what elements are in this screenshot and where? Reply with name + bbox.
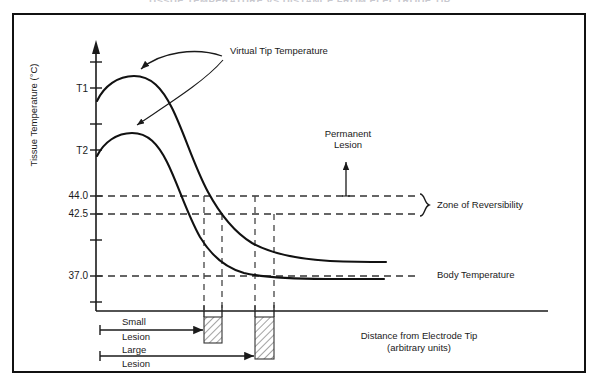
annotation-small-lesion-line2: Lesion <box>122 331 150 342</box>
figure-root: TISSUE TEMPERATURE VS DISTANCE FROM ELEC… <box>0 0 598 387</box>
plot-canvas <box>0 0 598 387</box>
lesion-band-small <box>204 317 222 343</box>
annotation-large-lesion-line1: Large <box>122 344 146 355</box>
x-axis-title-line2: (arbitrary units) <box>330 342 508 353</box>
curve-virtual-tip-low <box>97 133 384 279</box>
zone-of-reversibility-brace <box>420 194 429 216</box>
x-axis-title-line1: Distance from Electrode Tip <box>330 330 508 341</box>
annotation-permanent-lesion-line1: Permanent <box>316 128 380 139</box>
curve-virtual-tip-high <box>97 76 386 262</box>
lesion-band-large <box>255 317 274 359</box>
leader-arrow-to-lower-curve <box>137 60 223 125</box>
small-lesion-measure <box>100 325 203 335</box>
leader-arrow-to-upper-curve <box>141 52 222 69</box>
annotation-large-lesion-line2: Lesion <box>122 358 150 369</box>
y-axis <box>90 40 102 311</box>
x-axis <box>96 305 548 317</box>
annotation-small-lesion-line1: Small <box>122 316 146 327</box>
annotation-zone-of-reversibility: Zone of Reversibility <box>437 199 523 210</box>
annotation-virtual-tip-temperature: Virtual Tip Temperature <box>230 45 328 56</box>
annotation-permanent-lesion-line2: Lesion <box>316 139 380 150</box>
annotation-body-temperature: Body Temperature <box>437 269 514 280</box>
